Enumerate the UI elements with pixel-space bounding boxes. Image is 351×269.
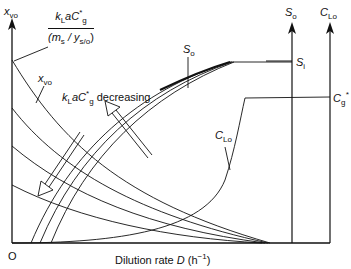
si-label: Si: [296, 57, 305, 71]
decreasing-annotation: kLaC*g decreasing: [62, 90, 150, 106]
xvo-curve-label: xvo: [38, 73, 52, 87]
right-axis-so: [288, 22, 296, 243]
right-axis-so-label: So: [285, 7, 297, 21]
intercept-fraction-label: kLaC*g (ms / ys/o): [48, 9, 94, 47]
xvo-curves: [12, 60, 270, 243]
origin-label: O: [8, 251, 17, 262]
so-curve-label: So: [183, 44, 195, 58]
leader-lines: [14, 47, 230, 170]
left-axis: [8, 18, 16, 243]
cg-star-label: Cg*: [333, 91, 349, 107]
right-axis-clo-label: CLo: [320, 7, 337, 21]
x-axis-label: Dilution rate D (h−1): [115, 253, 210, 266]
so-curve-bold: [160, 62, 230, 90]
right-axis-clo: [326, 22, 334, 243]
decreasing-arrow-right: [105, 101, 152, 158]
clo-curve-label: CLo: [215, 130, 232, 144]
clo-curve: [12, 97, 330, 243]
left-axis-label: xvo: [4, 6, 18, 20]
